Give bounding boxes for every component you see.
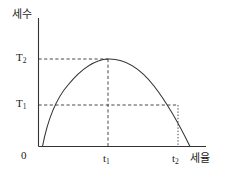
x-tick-t1-subscript: 1 — [106, 157, 110, 166]
y-tick-label-T2: T2 — [16, 52, 26, 63]
x-tick-label-t1: t1 — [103, 153, 110, 164]
chart-canvas — [0, 0, 225, 177]
y-tick-label-T1: T1 — [16, 98, 26, 109]
x-tick-t2-subscript: 2 — [175, 157, 179, 166]
x-tick-label-t2: t2 — [172, 153, 179, 164]
tax-revenue-curve — [43, 59, 191, 147]
y-tick-T2-subscript: 2 — [23, 56, 27, 65]
laffer-curve-figure: 세수 세율 T2 T1 t1 t2 0 — [0, 0, 225, 177]
origin-label: 0 — [21, 150, 27, 161]
x-axis-title: 세율 — [190, 153, 210, 164]
y-tick-T1-subscript: 1 — [23, 102, 27, 111]
y-axis-title: 세수 — [12, 9, 32, 20]
y-tick-T2-base: T — [16, 51, 23, 63]
y-tick-T1-base: T — [16, 97, 23, 109]
